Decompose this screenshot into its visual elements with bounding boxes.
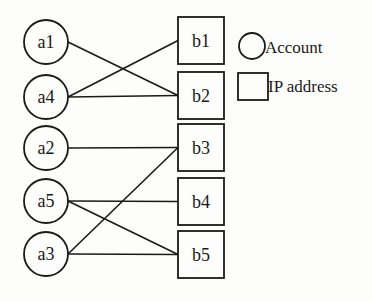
account-node-a3: a3 [24,232,68,276]
edge-a5-b5 [68,201,178,255]
ip-node-b1: b1 [178,17,224,64]
edge-a2-b3 [68,148,178,149]
account-node-a1: a1 [24,20,68,64]
ip-label: b5 [192,245,210,265]
ip-label: b3 [192,138,210,158]
bipartite-graph: a1a4a2a5a3 b1b2b3b4b5 Account IP address [0,0,372,301]
account-label: a1 [38,32,55,52]
account-label: a3 [38,244,55,264]
edge-a4-b2 [68,96,178,98]
account-label: a4 [38,87,55,107]
account-nodes: a1a4a2a5a3 [24,20,68,276]
ip-node-b2: b2 [178,72,224,119]
ip-label: b1 [192,31,210,51]
legend-ip-square-icon [238,73,268,100]
legend-account-circle-icon [239,33,265,59]
legend: Account IP address [238,33,338,100]
ip-node-b5: b5 [178,231,224,278]
account-node-a4: a4 [24,75,68,119]
account-label: a5 [38,191,55,211]
account-node-a5: a5 [24,179,68,223]
legend-account-label: Account [265,38,323,57]
account-node-a2: a2 [24,126,68,170]
ip-label: b2 [192,86,210,106]
ip-nodes: b1b2b3b4b5 [178,17,224,278]
edge-a4-b1 [68,41,178,98]
ip-node-b4: b4 [178,178,224,225]
ip-label: b4 [192,192,210,212]
edge-a3-b5 [68,254,178,255]
legend-ip-label: IP address [268,77,338,96]
edges [68,41,178,255]
account-label: a2 [38,138,55,158]
ip-node-b3: b3 [178,124,224,171]
